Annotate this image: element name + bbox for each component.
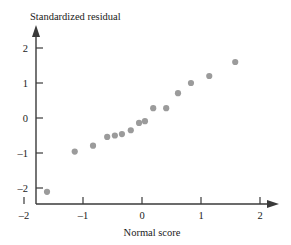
x-axis-title: Normal score xyxy=(124,227,181,238)
scatter-point xyxy=(163,105,169,111)
scatter-point xyxy=(44,189,50,195)
scatter-point xyxy=(150,105,156,111)
chart-canvas: –2–1012 –2–1012 Normal score Standardize… xyxy=(0,0,291,245)
y-tick-label: –1 xyxy=(17,148,29,159)
scatter-point xyxy=(188,80,194,86)
axes-group xyxy=(32,25,279,208)
x-axis-ticks xyxy=(24,197,260,204)
scatter-point xyxy=(128,127,134,133)
scatter-point xyxy=(142,118,148,124)
x-tick-label: –2 xyxy=(18,210,30,221)
x-tick-label: 0 xyxy=(139,210,144,221)
y-axis-title: Standardized residual xyxy=(30,11,121,22)
scatter-point xyxy=(72,149,78,155)
y-axis-ticks xyxy=(36,48,43,188)
scatter-points-group xyxy=(44,59,238,195)
y-axis-tick-labels: –2–1012 xyxy=(17,43,29,194)
y-tick-label: –2 xyxy=(17,183,29,194)
x-tick-label: 1 xyxy=(198,210,203,221)
scatter-point xyxy=(112,132,118,138)
x-tick-label: –1 xyxy=(77,210,89,221)
y-axis-arrowhead xyxy=(32,25,40,37)
x-axis-arrowhead xyxy=(267,200,279,208)
scatter-point xyxy=(136,120,142,126)
y-tick-label: 2 xyxy=(23,43,28,54)
y-tick-label: 0 xyxy=(23,113,28,124)
normal-probability-plot: –2–1012 –2–1012 Normal score Standardize… xyxy=(0,0,291,245)
scatter-point xyxy=(206,73,212,79)
scatter-point xyxy=(90,143,96,149)
scatter-point xyxy=(175,90,181,96)
x-tick-label: 2 xyxy=(257,210,262,221)
scatter-point xyxy=(119,131,125,137)
x-axis-tick-labels: –2–1012 xyxy=(18,210,263,221)
scatter-point xyxy=(104,134,110,140)
y-tick-label: 1 xyxy=(23,78,28,89)
scatter-point xyxy=(232,59,238,65)
